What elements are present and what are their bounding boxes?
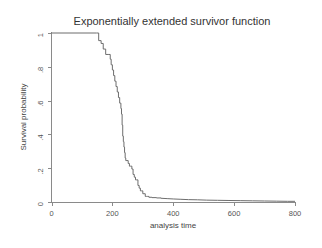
y-tick-label: .8: [36, 67, 45, 73]
x-tick-label: 600: [228, 209, 241, 218]
chart-title: Exponentially extended survivor function: [74, 15, 271, 27]
x-tick-label: 200: [106, 209, 119, 218]
y-axis-title: Survival probability: [19, 83, 28, 150]
y-tick-label: .6: [36, 101, 45, 107]
y-tick-label: 1: [36, 33, 45, 37]
y-tick-label: .2: [36, 168, 45, 174]
x-tick-label: 800: [289, 209, 302, 218]
chart-background: [0, 0, 322, 248]
x-axis-title: analysis time: [150, 221, 197, 230]
y-tick-label: .4: [36, 134, 45, 140]
chart-canvas: Exponentially extended survivor function…: [0, 0, 322, 248]
y-tick-label: 0: [36, 202, 45, 206]
x-tick-label: 400: [167, 209, 180, 218]
survivor-function-chart: Exponentially extended survivor function…: [0, 0, 322, 248]
x-tick-label: 0: [49, 209, 53, 218]
